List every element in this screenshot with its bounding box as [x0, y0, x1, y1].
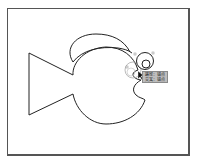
- anchor-point[interactable]: [126, 66, 128, 68]
- fish-body[interactable]: [73, 47, 145, 124]
- fish-tail[interactable]: [29, 53, 73, 115]
- smart-guide-line-2: 交叉：锚点: [145, 77, 165, 82]
- anchor-point[interactable]: [134, 53, 136, 55]
- drawing-canvas[interactable]: [0, 0, 198, 164]
- smart-guide-tooltip: 路径：锚点 交叉：锚点: [142, 71, 168, 83]
- fish-eye-outer[interactable]: [137, 53, 154, 70]
- fish-dorsal-fin-base[interactable]: [73, 48, 132, 62]
- anchor-point[interactable]: [152, 52, 154, 54]
